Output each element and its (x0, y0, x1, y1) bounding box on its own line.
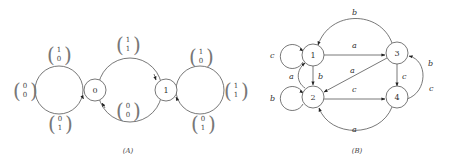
loop-right (176, 66, 224, 114)
svg-text:4: 4 (394, 93, 399, 102)
label-2-1: a (289, 72, 294, 81)
vector-left-bottom: () 0 1 (48, 112, 73, 136)
vector-left-top: () 1 0 (47, 43, 72, 67)
svg-text:1: 1 (234, 91, 238, 99)
node-a-1: 1 (155, 79, 177, 101)
vector-left-left: () 0 0 (13, 79, 38, 103)
label-loop-1: c (270, 51, 275, 60)
svg-text:): ) (133, 33, 141, 57)
svg-text:0: 0 (58, 115, 62, 123)
svg-text:0: 0 (201, 115, 205, 123)
label-1-3: a (352, 41, 357, 50)
svg-text:1: 1 (199, 48, 203, 56)
svg-text:0: 0 (57, 55, 61, 63)
label-1-2: b (318, 72, 323, 81)
node-a-0: 0 (84, 79, 106, 101)
svg-text:1: 1 (57, 46, 61, 54)
label-3-1: b (352, 8, 357, 17)
vector-right-right: () 1 1 (224, 79, 249, 103)
loop-left (35, 66, 83, 114)
svg-text:1: 1 (310, 51, 315, 60)
svg-text:(: ( (191, 112, 199, 136)
vector-right-bottom: () 0 1 (191, 112, 216, 136)
caption-b: (B) (352, 147, 363, 155)
svg-text:(: ( (47, 43, 55, 67)
diagram-canvas: 0 1 () 1 0 () 0 0 () 0 1 () 1 1 () 0 (0, 0, 449, 164)
svg-text:): ) (206, 45, 214, 69)
diagram-a: 0 1 () 1 0 () 0 0 () 0 1 () 1 1 () 0 (13, 33, 249, 155)
label-3-2: a (350, 66, 355, 75)
caption-a: (A) (123, 147, 134, 155)
loop-left-arrow (82, 96, 84, 99)
svg-text:3: 3 (394, 49, 399, 58)
vector-mid-top: () 1 1 (116, 33, 141, 57)
svg-text:0: 0 (199, 57, 203, 65)
diagram-b: c b a b a a c c b b c a 1 (270, 8, 434, 155)
svg-text:1: 1 (126, 36, 130, 44)
svg-text:(: ( (13, 79, 21, 103)
svg-text:0: 0 (126, 102, 130, 110)
node-b-4: 4 (386, 86, 408, 108)
label-loop-2: b (270, 94, 275, 103)
svg-text:1: 1 (126, 45, 130, 53)
svg-text:): ) (241, 79, 249, 103)
svg-text:): ) (133, 99, 141, 123)
svg-text:): ) (64, 43, 72, 67)
svg-text:1: 1 (234, 82, 238, 90)
node-b-1: 1 (302, 44, 324, 66)
loop-middle-arrow-to-1 (154, 74, 156, 80)
label-3-4: c (402, 72, 407, 81)
vector-mid-bottom: () 0 0 (116, 99, 141, 123)
svg-text:(: ( (224, 79, 232, 103)
svg-text:1: 1 (201, 124, 205, 132)
svg-text:): ) (30, 79, 38, 103)
edge-4-3 (407, 56, 423, 99)
loop-1 (280, 44, 303, 68)
svg-text:0: 0 (92, 86, 97, 95)
vector-right-top: () 1 0 (189, 45, 214, 69)
label-4-3-b: b (428, 59, 433, 68)
svg-text:0: 0 (23, 82, 27, 90)
svg-text:0: 0 (23, 91, 27, 99)
svg-text:1: 1 (58, 124, 62, 132)
loop-2 (280, 87, 303, 111)
svg-text:0: 0 (126, 111, 130, 119)
label-2-4: c (352, 85, 357, 94)
svg-text:(: ( (189, 45, 197, 69)
node-b-3: 3 (386, 42, 408, 64)
svg-text:): ) (65, 112, 73, 136)
label-4-3-c: c (429, 84, 434, 93)
label-4-2: a (352, 125, 357, 134)
node-b-2: 2 (302, 86, 324, 108)
svg-text:): ) (208, 112, 216, 136)
svg-text:2: 2 (310, 93, 315, 102)
svg-text:(: ( (116, 99, 124, 123)
svg-text:(: ( (116, 33, 124, 57)
svg-text:(: ( (48, 112, 56, 136)
svg-text:1: 1 (163, 86, 168, 95)
